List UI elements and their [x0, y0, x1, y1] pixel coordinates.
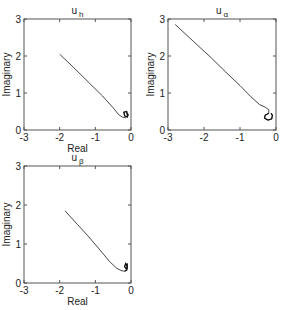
x-axis-label: Real	[67, 143, 88, 154]
y-tick-label: 2	[15, 51, 21, 62]
x-tick-label: -2	[55, 132, 64, 143]
x-tick-label: -1	[91, 285, 100, 296]
subplot-3: uβ-3-2-100123RealImaginary	[1, 152, 134, 307]
locus-curve	[65, 211, 127, 271]
x-tick-label: 0	[273, 132, 279, 143]
y-tick-label: 3	[15, 14, 21, 25]
spiral-cluster	[125, 264, 128, 272]
y-tick-label: 2	[159, 51, 165, 62]
spiral-cluster	[124, 112, 128, 118]
x-tick-label: 0	[128, 285, 134, 296]
locus-curve	[60, 54, 128, 118]
subplot-title: uβ	[71, 152, 84, 166]
y-axis-label: Imaginary	[145, 53, 156, 97]
x-tick-label: -1	[236, 132, 245, 143]
y-tick-label: 3	[159, 14, 165, 25]
subplot-title: uα	[216, 5, 229, 19]
y-axis-label: Imaginary	[1, 53, 12, 97]
subplot-title: uh	[71, 5, 83, 19]
axes-frame	[24, 19, 131, 130]
spiral-cluster	[265, 113, 273, 120]
x-tick-label: -2	[200, 132, 209, 143]
y-axis-label: Imaginary	[1, 203, 12, 247]
y-tick-label: 3	[15, 161, 21, 172]
y-tick-label: 0	[15, 125, 21, 136]
x-tick-label: 0	[128, 132, 134, 143]
x-tick-label: -2	[55, 285, 64, 296]
y-tick-label: 0	[159, 125, 165, 136]
y-tick-label: 0	[15, 278, 21, 289]
y-tick-label: 1	[159, 88, 165, 99]
subplot-1: uh-3-2-100123RealImaginary	[1, 5, 134, 154]
x-tick-label: -1	[91, 132, 100, 143]
y-tick-label: 1	[15, 88, 21, 99]
x-axis-label: Real	[67, 296, 88, 307]
y-tick-label: 2	[15, 200, 21, 211]
y-tick-label: 1	[15, 239, 21, 250]
subplot-2: uα-3-2-100123Imaginary	[145, 5, 279, 143]
axes-frame	[168, 19, 276, 130]
root-locus-figure: uh-3-2-100123RealImaginaryuα-3-2-100123I…	[0, 0, 282, 310]
locus-curve	[175, 25, 272, 121]
